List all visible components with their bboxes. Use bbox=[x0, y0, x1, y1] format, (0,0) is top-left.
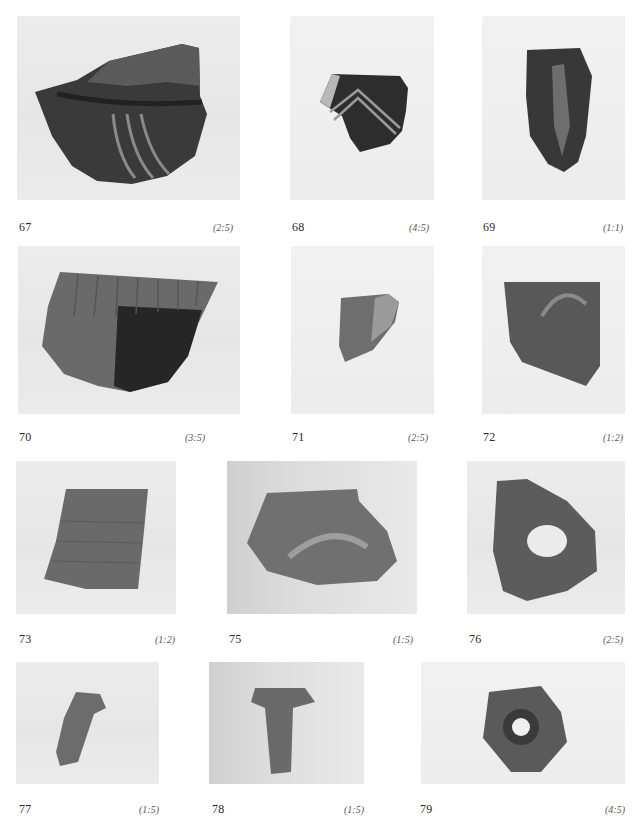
figure-scale-68: (4:5) bbox=[409, 222, 429, 233]
figure-scale-71: (2:5) bbox=[408, 432, 428, 443]
sherd-71-image bbox=[291, 246, 434, 414]
sherd-68-image bbox=[290, 16, 434, 200]
figure-number-72: 72 bbox=[483, 430, 496, 445]
figure-scale-79: (4:5) bbox=[605, 804, 625, 815]
figure-number-78: 78 bbox=[212, 802, 225, 817]
figure-scale-69: (1:1) bbox=[603, 222, 623, 233]
figure-number-70: 70 bbox=[19, 430, 32, 445]
photo-figure-68 bbox=[290, 16, 434, 200]
photo-figure-76 bbox=[467, 461, 625, 614]
photo-figure-70 bbox=[18, 246, 240, 414]
photo-figure-77 bbox=[16, 662, 159, 784]
figure-scale-67: (2:5) bbox=[213, 222, 233, 233]
fragment-77-image bbox=[16, 662, 159, 784]
sherd-72-image bbox=[482, 246, 625, 414]
fragment-78-image bbox=[209, 662, 364, 784]
figure-number-76: 76 bbox=[469, 632, 482, 647]
figure-number-75: 75 bbox=[229, 632, 242, 647]
photo-figure-67 bbox=[17, 16, 240, 200]
sherd-67-image bbox=[17, 16, 240, 200]
figure-number-69: 69 bbox=[483, 220, 496, 235]
sherd-76-image bbox=[467, 461, 625, 614]
photo-figure-73 bbox=[16, 461, 176, 614]
figure-scale-72: (1:2) bbox=[603, 432, 623, 443]
sherd-73-image bbox=[16, 461, 176, 614]
figure-scale-75: (1:5) bbox=[393, 634, 413, 645]
photo-figure-78 bbox=[209, 662, 364, 784]
sherd-69-image bbox=[482, 16, 625, 200]
spindle-whorl-79-image bbox=[421, 662, 625, 784]
figure-number-73: 73 bbox=[19, 632, 32, 647]
photo-figure-72 bbox=[482, 246, 625, 414]
figure-number-68: 68 bbox=[292, 220, 305, 235]
sherd-70-image bbox=[18, 246, 240, 414]
figure-number-77: 77 bbox=[19, 802, 32, 817]
figure-scale-77: (1:5) bbox=[139, 804, 159, 815]
sherd-75-image bbox=[227, 461, 417, 614]
figure-scale-78: (1:5) bbox=[344, 804, 364, 815]
photo-figure-75 bbox=[227, 461, 417, 614]
figure-number-71: 71 bbox=[292, 430, 305, 445]
figure-number-67: 67 bbox=[19, 220, 32, 235]
figure-scale-73: (1:2) bbox=[155, 634, 175, 645]
photo-figure-79 bbox=[421, 662, 625, 784]
figure-scale-76: (2:5) bbox=[603, 634, 623, 645]
figure-number-79: 79 bbox=[420, 802, 433, 817]
photo-figure-71 bbox=[291, 246, 434, 414]
figure-scale-70: (3:5) bbox=[185, 432, 205, 443]
photo-figure-69 bbox=[482, 16, 625, 200]
